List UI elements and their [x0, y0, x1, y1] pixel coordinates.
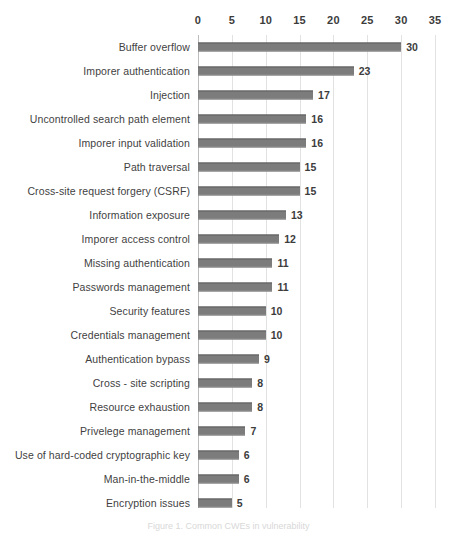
bar-row[interactable]: Injection17: [0, 83, 457, 107]
bar[interactable]: [198, 307, 266, 316]
bar-wrapper: [198, 403, 252, 412]
bar-value-label: 7: [250, 425, 256, 437]
bar[interactable]: [198, 379, 252, 388]
category-label: Passwords management: [72, 281, 190, 293]
bar-value-label: 10: [271, 305, 283, 317]
bar-value-label: 6: [244, 473, 250, 485]
bar-row[interactable]: Missing authentication11: [0, 251, 457, 275]
bar-value-label: 11: [277, 257, 288, 269]
bar-value-label: 12: [284, 233, 296, 245]
category-label: Uncontrolled search path element: [30, 113, 190, 125]
bar-value-label: 15: [305, 185, 317, 197]
category-label: Security features: [110, 305, 191, 317]
bar-row[interactable]: Privelege management7: [0, 419, 457, 443]
bar[interactable]: [198, 427, 245, 436]
category-label: Credentials management: [70, 329, 190, 341]
bar-row[interactable]: Passwords management11: [0, 275, 457, 299]
bar-wrapper: [198, 259, 272, 268]
bar-row[interactable]: Cross-site request forgery (CSRF)15: [0, 179, 457, 203]
category-label: Encryption issues: [106, 497, 190, 509]
bar-row[interactable]: Use of hard-coded cryptographic key6: [0, 443, 457, 467]
category-label: Path traversal: [124, 161, 190, 173]
bar-row[interactable]: Path traversal15: [0, 155, 457, 179]
x-axis-tick-labels: 05101520253035: [0, 14, 457, 30]
bar[interactable]: [198, 403, 252, 412]
category-label: Cross-site request forgery (CSRF): [27, 185, 190, 197]
bar[interactable]: [198, 331, 266, 340]
bar-row[interactable]: Credentials management10: [0, 323, 457, 347]
bar[interactable]: [198, 163, 300, 172]
bar[interactable]: [198, 139, 306, 148]
category-label: Use of hard-coded cryptographic key: [15, 449, 190, 461]
bar-row[interactable]: Cross - site scripting8: [0, 371, 457, 395]
bar-wrapper: [198, 355, 259, 364]
bar-value-label: 8: [257, 401, 263, 413]
bar-wrapper: [198, 43, 401, 52]
category-label: Authentication bypass: [85, 353, 190, 365]
bar-rows: Buffer overflow30Imporer authentication2…: [0, 35, 457, 508]
bar-wrapper: [198, 451, 239, 460]
bar-row[interactable]: Security features10: [0, 299, 457, 323]
bar-value-label: 23: [359, 65, 371, 77]
bar-wrapper: [198, 331, 266, 340]
x-tick-label: 20: [327, 14, 340, 26]
bar-wrapper: [198, 91, 313, 100]
bar[interactable]: [198, 475, 239, 484]
bar[interactable]: [198, 115, 306, 124]
bar-value-label: 8: [257, 377, 263, 389]
bar-row[interactable]: Buffer overflow30: [0, 35, 457, 59]
bar-wrapper: [198, 427, 245, 436]
bar-wrapper: [198, 235, 279, 244]
bar[interactable]: [198, 283, 272, 292]
x-tick-label: 15: [293, 14, 306, 26]
bar-wrapper: [198, 307, 266, 316]
bar[interactable]: [198, 355, 259, 364]
bar-row[interactable]: Imporer authentication23: [0, 59, 457, 83]
category-label: Imporer authentication: [83, 65, 190, 77]
bar-wrapper: [198, 139, 306, 148]
x-tick-label: 0: [195, 14, 201, 26]
category-label: Resource exhaustion: [89, 401, 190, 413]
bar[interactable]: [198, 67, 354, 76]
bar[interactable]: [198, 235, 279, 244]
bar-row[interactable]: Imporer access control12: [0, 227, 457, 251]
bar-wrapper: [198, 115, 306, 124]
bar-wrapper: [198, 211, 286, 220]
bar-row[interactable]: Uncontrolled search path element16: [0, 107, 457, 131]
bar-row[interactable]: Imporer input validation16: [0, 131, 457, 155]
bar-value-label: 6: [244, 449, 250, 461]
bar-value-label: 30: [406, 41, 418, 53]
bar[interactable]: [198, 259, 272, 268]
bar-value-label: 10: [271, 329, 283, 341]
bar-value-label: 13: [291, 209, 303, 221]
bar[interactable]: [198, 451, 239, 460]
category-label: Missing authentication: [84, 257, 190, 269]
bar-row[interactable]: Resource exhaustion8: [0, 395, 457, 419]
bar[interactable]: [198, 499, 232, 508]
bar-wrapper: [198, 187, 300, 196]
bar-wrapper: [198, 163, 300, 172]
bar-row[interactable]: Man-in-the-middle6: [0, 467, 457, 491]
bar-value-label: 15: [305, 161, 317, 173]
bar-value-label: 16: [311, 113, 323, 125]
category-label: Injection: [150, 89, 190, 101]
bar-wrapper: [198, 475, 239, 484]
x-tick-label: 35: [429, 14, 442, 26]
bar[interactable]: [198, 43, 401, 52]
bar[interactable]: [198, 187, 300, 196]
bar-row[interactable]: Authentication bypass9: [0, 347, 457, 371]
bar-row[interactable]: Encryption issues5: [0, 491, 457, 515]
bar-value-label: 5: [237, 497, 243, 509]
bar-wrapper: [198, 283, 272, 292]
bar-row[interactable]: Information exposure13: [0, 203, 457, 227]
bar-value-label: 11: [277, 281, 288, 293]
category-label: Imporer access control: [82, 233, 190, 245]
bar-value-label: 17: [318, 89, 330, 101]
bar[interactable]: [198, 91, 313, 100]
category-label: Buffer overflow: [119, 41, 190, 53]
bar-chart-figure: 05101520253035 Buffer overflow30Imporer …: [0, 0, 457, 535]
bar-wrapper: [198, 379, 252, 388]
category-label: Privelege management: [80, 425, 190, 437]
bar[interactable]: [198, 211, 286, 220]
bar-value-label: 16: [311, 137, 323, 149]
